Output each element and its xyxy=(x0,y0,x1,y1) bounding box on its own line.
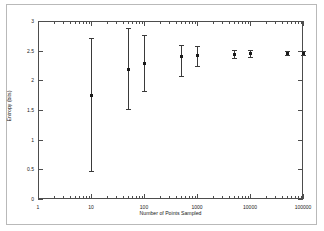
x-minor-tick xyxy=(116,196,117,199)
data-point-marker xyxy=(196,54,199,57)
x-minor-tick-top xyxy=(185,21,186,24)
x-minor-tick-top xyxy=(70,21,71,24)
x-tick xyxy=(303,194,304,199)
x-minor-tick xyxy=(301,196,302,199)
error-bar-cap-upper xyxy=(232,50,237,51)
y-tick-label: 2 xyxy=(12,77,34,83)
x-minor-tick-top xyxy=(123,21,124,24)
x-minor-tick xyxy=(242,196,243,199)
x-minor-tick xyxy=(185,196,186,199)
error-bar-cap-lower xyxy=(142,91,147,92)
x-minor-tick-top xyxy=(192,21,193,24)
x-minor-tick-top xyxy=(229,21,230,24)
x-minor-tick-top xyxy=(107,21,108,24)
x-minor-tick-top xyxy=(295,21,296,24)
x-minor-tick-top xyxy=(291,21,292,24)
x-minor-tick xyxy=(128,196,129,199)
error-bar xyxy=(181,45,182,75)
x-minor-tick-top xyxy=(248,21,249,24)
x-tick-top xyxy=(197,21,198,26)
x-minor-tick-top xyxy=(54,21,55,24)
error-bar-cap-upper xyxy=(126,28,131,29)
x-minor-tick xyxy=(169,196,170,199)
error-bar-cap-lower xyxy=(285,55,290,56)
data-point-marker xyxy=(249,52,252,55)
x-minor-tick-top xyxy=(238,21,239,24)
x-minor-tick xyxy=(89,196,90,199)
error-bar-cap-lower xyxy=(195,66,200,67)
error-bar-cap-upper xyxy=(89,38,94,39)
x-minor-tick-top xyxy=(79,21,80,24)
x-minor-tick-top xyxy=(195,21,196,24)
x-minor-tick-top xyxy=(222,21,223,24)
error-bar-cap-upper xyxy=(195,46,200,47)
x-minor-tick-top xyxy=(116,21,117,24)
x-minor-tick-top xyxy=(245,21,246,24)
x-minor-tick-top xyxy=(266,21,267,24)
x-minor-tick xyxy=(63,196,64,199)
x-minor-tick xyxy=(83,196,84,199)
x-minor-tick-top xyxy=(181,21,182,24)
x-minor-tick xyxy=(234,196,235,199)
error-bar-cap-upper xyxy=(179,45,184,46)
x-minor-tick xyxy=(75,196,76,199)
x-minor-tick xyxy=(189,196,190,199)
data-point-marker xyxy=(127,68,130,71)
y-tick xyxy=(38,80,43,81)
x-minor-tick-top xyxy=(213,21,214,24)
x-minor-tick-top xyxy=(75,21,76,24)
x-minor-tick xyxy=(139,196,140,199)
x-minor-tick xyxy=(160,196,161,199)
x-minor-tick-top xyxy=(83,21,84,24)
data-point-marker xyxy=(286,52,289,55)
x-minor-tick xyxy=(248,196,249,199)
error-bar-cap-upper xyxy=(142,35,147,36)
x-minor-tick xyxy=(213,196,214,199)
y-tick-right xyxy=(298,80,303,81)
x-minor-tick-top xyxy=(189,21,190,24)
x-minor-tick xyxy=(238,196,239,199)
x-tick xyxy=(38,194,39,199)
x-minor-tick xyxy=(123,196,124,199)
x-minor-tick xyxy=(54,196,55,199)
x-tick-top xyxy=(250,21,251,26)
x-minor-tick-top xyxy=(160,21,161,24)
x-minor-tick-top xyxy=(287,21,288,24)
data-point-marker xyxy=(302,52,305,55)
x-minor-tick-top xyxy=(132,21,133,24)
x-minor-tick xyxy=(181,196,182,199)
x-minor-tick xyxy=(266,196,267,199)
y-tick-label: 0 xyxy=(12,196,34,202)
y-tick xyxy=(38,199,43,200)
x-minor-tick-top xyxy=(89,21,90,24)
x-minor-tick xyxy=(132,196,133,199)
error-bar-cap-lower xyxy=(89,171,94,172)
x-tick xyxy=(144,194,145,199)
y-tick-right xyxy=(298,110,303,111)
x-minor-tick xyxy=(70,196,71,199)
x-minor-tick-top xyxy=(86,21,87,24)
error-bar-cap-lower xyxy=(301,55,306,56)
error-bar-cap-lower xyxy=(179,76,184,77)
y-tick xyxy=(38,169,43,170)
y-axis-title: Entropy (bits) xyxy=(6,76,12,136)
y-tick-label: 2.5 xyxy=(12,48,34,54)
x-tick-top xyxy=(91,21,92,26)
x-tick-top xyxy=(38,21,39,26)
chart-figure: 00.511.522.53 110100100010000100000 Numb… xyxy=(0,0,324,231)
x-minor-tick-top xyxy=(176,21,177,24)
error-bar-cap-lower xyxy=(248,57,253,58)
x-minor-tick-top xyxy=(136,21,137,24)
x-minor-tick xyxy=(287,196,288,199)
y-tick-label: 1.5 xyxy=(12,107,34,113)
x-minor-tick-top xyxy=(242,21,243,24)
x-minor-tick xyxy=(282,196,283,199)
x-minor-tick xyxy=(298,196,299,199)
y-tick-label: 1 xyxy=(12,137,34,143)
y-tick-label: 0.5 xyxy=(12,166,34,172)
x-minor-tick-top xyxy=(128,21,129,24)
x-tick xyxy=(250,194,251,199)
x-minor-tick-top xyxy=(301,21,302,24)
x-minor-tick xyxy=(195,196,196,199)
error-bar-cap-upper xyxy=(248,50,253,51)
